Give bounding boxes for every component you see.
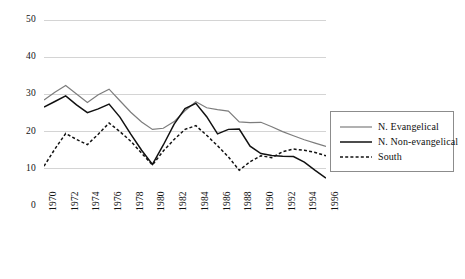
y-tick-label: 30 xyxy=(14,88,36,98)
legend-label: N. Evangelical xyxy=(378,121,439,132)
chart-legend: N. Evangelical N. Non-evangelical South xyxy=(330,111,454,172)
legend-swatch-south xyxy=(339,152,373,162)
chart-figure: 01020304050 1970197219741976197819801982… xyxy=(0,0,465,279)
y-tick-label: 10 xyxy=(14,163,36,173)
y-tick-label: 0 xyxy=(14,200,36,210)
plot-area xyxy=(44,20,326,206)
series-line xyxy=(44,123,326,170)
legend-label: South xyxy=(378,151,402,162)
legend-item: South xyxy=(339,149,447,164)
y-tick-label: 50 xyxy=(14,14,36,24)
legend-label: N. Non-evangelical xyxy=(378,136,458,147)
y-tick-label: 40 xyxy=(14,51,36,61)
x-tick-label: 1996 xyxy=(330,191,340,211)
legend-item: N. Evangelical xyxy=(339,119,447,134)
y-tick-label: 20 xyxy=(14,126,36,136)
legend-swatch-n-non-evangelical xyxy=(339,137,373,147)
series-line xyxy=(44,96,326,178)
legend-item: N. Non-evangelical xyxy=(339,134,447,149)
legend-swatch-n-evangelical xyxy=(339,122,373,132)
series-lines xyxy=(44,20,326,206)
